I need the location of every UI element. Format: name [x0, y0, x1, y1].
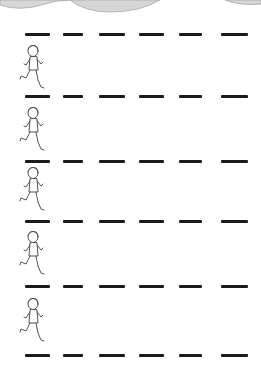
dash-segment [179, 220, 202, 223]
dash-segment [221, 285, 248, 288]
dash-segment [139, 354, 164, 357]
dash-segment [179, 33, 202, 36]
dash-segment [63, 285, 83, 288]
dash-segment [63, 33, 83, 36]
dash-segment [139, 220, 164, 223]
dash-segment [99, 354, 125, 357]
dash-segment [221, 160, 248, 163]
runner-figure [16, 297, 48, 345]
dash-segment [221, 220, 248, 223]
dash-segment [139, 285, 164, 288]
cloud-border-decoration [0, 0, 261, 14]
dash-segment [25, 160, 50, 163]
running-boy-icon [16, 44, 48, 92]
dash-segment [25, 95, 50, 98]
dashed-line [0, 160, 261, 163]
runner-figure [16, 106, 48, 154]
running-boy-icon [16, 230, 48, 278]
dash-segment [179, 95, 202, 98]
running-boy-icon [16, 297, 48, 345]
dash-segment [99, 95, 125, 98]
dash-segment [179, 354, 202, 357]
dashed-line [0, 220, 261, 223]
dash-segment [139, 95, 164, 98]
dash-segment [221, 33, 248, 36]
running-boy-icon [16, 166, 48, 214]
dash-segment [25, 33, 50, 36]
dashed-line [0, 95, 261, 98]
dash-segment [99, 220, 125, 223]
dash-segment [179, 285, 202, 288]
dash-segment [25, 354, 50, 357]
dashed-line [0, 354, 261, 357]
dash-segment [139, 33, 164, 36]
dash-segment [179, 160, 202, 163]
dash-segment [63, 220, 83, 223]
dash-segment [25, 220, 50, 223]
runner-figure [16, 230, 48, 278]
dash-segment [139, 160, 164, 163]
runner-figure [16, 44, 48, 92]
dash-segment [221, 95, 248, 98]
dash-segment [63, 95, 83, 98]
running-boy-icon [16, 106, 48, 154]
dash-segment [99, 285, 125, 288]
dashed-line [0, 285, 261, 288]
runner-figure [16, 166, 48, 214]
dash-segment [99, 33, 125, 36]
dash-segment [63, 160, 83, 163]
dash-segment [63, 354, 83, 357]
dash-segment [221, 354, 248, 357]
dash-segment [25, 285, 50, 288]
dash-segment [99, 160, 125, 163]
dashed-line [0, 33, 261, 36]
